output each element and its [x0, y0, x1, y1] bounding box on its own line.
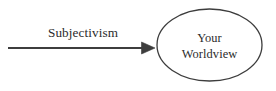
node-label-line1: Your: [197, 31, 222, 45]
diagram-canvas: Subjectivism Your Worldview: [0, 0, 276, 91]
node-label-line2: Worldview: [182, 47, 238, 61]
node-ellipse-worldview: [157, 9, 262, 81]
arrow-label-subjectivism: Subjectivism: [48, 25, 119, 40]
arrow-head-icon: [142, 42, 156, 54]
diagram-svg: Subjectivism Your Worldview: [0, 0, 276, 91]
